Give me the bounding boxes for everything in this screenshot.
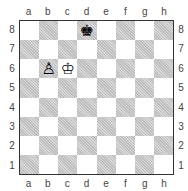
square-g3: [135, 117, 154, 136]
square-g2: [135, 136, 154, 155]
square-b2: [39, 136, 58, 155]
square-d2: [77, 136, 96, 155]
square-a4: [20, 98, 39, 117]
square-b5: [39, 78, 58, 97]
file-label-top: d: [77, 6, 96, 17]
file-label-top: c: [58, 6, 77, 17]
square-e6: [97, 59, 116, 78]
file-label-top: b: [38, 6, 57, 17]
square-e7: [97, 40, 116, 59]
rank-label-left: 6: [7, 59, 17, 78]
file-label-top: e: [97, 6, 116, 17]
square-d7: [77, 40, 96, 59]
rank-label-left: 1: [7, 156, 17, 175]
square-d1: [77, 155, 96, 174]
square-d3: [77, 117, 96, 136]
square-g6: [135, 59, 154, 78]
square-b3: [39, 117, 58, 136]
white-king-icon: ♔: [58, 59, 77, 78]
square-f1: [116, 155, 135, 174]
rank-label-left: 3: [7, 117, 17, 136]
rank-label-right: 1: [176, 156, 186, 175]
rank-label-left: 8: [7, 20, 17, 39]
square-e1: [97, 155, 116, 174]
file-label-top: f: [116, 6, 135, 17]
square-h3: [154, 117, 173, 136]
square-h1: [154, 155, 173, 174]
file-label-bottom: h: [155, 178, 174, 189]
file-label-bottom: g: [135, 178, 154, 189]
square-h4: [154, 98, 173, 117]
rank-label-left: 7: [7, 39, 17, 58]
file-label-bottom: c: [58, 178, 77, 189]
square-c5: [58, 78, 77, 97]
square-f5: [116, 78, 135, 97]
square-h2: [154, 136, 173, 155]
square-b8: [39, 21, 58, 40]
file-label-bottom: f: [116, 178, 135, 189]
square-g5: [135, 78, 154, 97]
rank-label-left: 5: [7, 78, 17, 97]
file-label-bottom: b: [38, 178, 57, 189]
square-d4: [77, 98, 96, 117]
square-h5: [154, 78, 173, 97]
chess-board: ♚♙♔: [19, 20, 174, 175]
rank-label-right: 5: [176, 78, 186, 97]
square-c1: [58, 155, 77, 174]
square-f7: [116, 40, 135, 59]
file-label-top: g: [135, 6, 154, 17]
square-f4: [116, 98, 135, 117]
square-a7: [20, 40, 39, 59]
file-label-bottom: a: [19, 178, 38, 189]
square-e2: [97, 136, 116, 155]
rank-label-right: 2: [176, 136, 186, 155]
white-pawn-icon: ♙: [39, 59, 58, 78]
square-d8: ♚: [77, 21, 96, 40]
file-label-top: a: [19, 6, 38, 17]
square-a3: [20, 117, 39, 136]
square-b6: ♙: [39, 59, 58, 78]
square-e5: [97, 78, 116, 97]
rank-label-right: 3: [176, 117, 186, 136]
rank-label-left: 4: [7, 98, 17, 117]
square-g8: [135, 21, 154, 40]
square-a6: [20, 59, 39, 78]
square-h6: [154, 59, 173, 78]
square-g1: [135, 155, 154, 174]
square-a1: [20, 155, 39, 174]
square-c7: [58, 40, 77, 59]
square-c6: ♔: [58, 59, 77, 78]
rank-label-right: 6: [176, 59, 186, 78]
square-a2: [20, 136, 39, 155]
square-d5: [77, 78, 96, 97]
square-h7: [154, 40, 173, 59]
square-h8: [154, 21, 173, 40]
square-b4: [39, 98, 58, 117]
square-c4: [58, 98, 77, 117]
file-label-bottom: d: [77, 178, 96, 189]
rank-label-right: 7: [176, 39, 186, 58]
square-c8: [58, 21, 77, 40]
square-f2: [116, 136, 135, 155]
file-label-top: h: [155, 6, 174, 17]
square-c3: [58, 117, 77, 136]
square-a5: [20, 78, 39, 97]
square-b7: [39, 40, 58, 59]
square-d6: [77, 59, 96, 78]
square-f8: [116, 21, 135, 40]
square-e8: [97, 21, 116, 40]
black-king-icon: ♚: [77, 21, 96, 40]
square-f6: [116, 59, 135, 78]
square-g7: [135, 40, 154, 59]
file-label-bottom: e: [97, 178, 116, 189]
rank-label-left: 2: [7, 136, 17, 155]
square-g4: [135, 98, 154, 117]
rank-label-right: 8: [176, 20, 186, 39]
square-e4: [97, 98, 116, 117]
square-b1: [39, 155, 58, 174]
square-c2: [58, 136, 77, 155]
square-f3: [116, 117, 135, 136]
square-a8: [20, 21, 39, 40]
square-e3: [97, 117, 116, 136]
rank-label-right: 4: [176, 98, 186, 117]
